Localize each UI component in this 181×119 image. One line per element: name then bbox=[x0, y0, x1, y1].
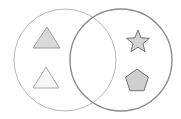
star-icon bbox=[127, 30, 150, 52]
left-set-circle bbox=[14, 9, 116, 111]
shapes-layer bbox=[33, 27, 149, 91]
right-set-circle bbox=[70, 9, 172, 111]
venn-diagram bbox=[0, 0, 181, 119]
triangle-icon bbox=[33, 27, 60, 48]
sets-layer bbox=[14, 9, 172, 111]
triangle-icon bbox=[33, 67, 59, 88]
pentagon-icon bbox=[126, 69, 149, 91]
